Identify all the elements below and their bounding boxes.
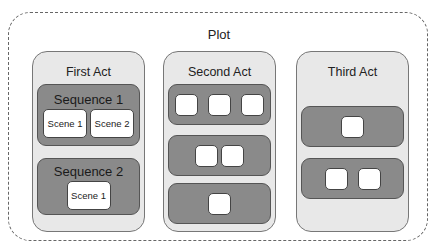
scene-box: Scene 1 [43,109,87,138]
sequence-1: Sequence 1 Scene 1 Scene 2 [37,84,140,146]
act-first: First Act Sequence 1 Scene 1 Scene 2 Seq… [32,51,145,232]
act-second: Second Act [163,51,276,232]
scene-box [325,168,348,190]
plot-title: Plot [0,27,438,42]
sequence-2 [168,135,271,176]
sequence-2: Sequence 2 Scene 1 [37,158,140,215]
sequence-1 [301,106,404,147]
act-title: First Act [33,65,144,79]
scene-row [325,168,381,190]
scene-box [175,94,198,116]
scene-row [208,193,231,215]
act-third: Third Act [296,51,409,232]
sequence-title: Sequence 2 [54,164,123,179]
scene-row: Scene 1 [67,181,111,210]
act-title: Second Act [164,65,275,79]
sequence-3 [168,183,271,224]
scene-box [208,193,231,215]
scene-box [241,94,264,116]
scene-box: Scene 2 [90,109,134,138]
sequence-2 [301,158,404,199]
scene-row [195,145,244,167]
scene-box [195,145,218,167]
sequence-title: Sequence 1 [54,92,123,107]
scene-row [175,94,264,116]
scene-box [208,94,231,116]
scene-row [341,116,364,138]
scene-row: Scene 1 Scene 2 [43,109,134,138]
scene-box [358,168,381,190]
scene-box [341,116,364,138]
scene-box [221,145,244,167]
sequence-1 [168,84,271,125]
scene-box: Scene 1 [67,181,111,210]
act-title: Third Act [297,65,408,79]
